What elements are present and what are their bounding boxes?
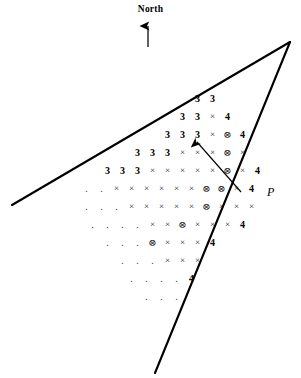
symbol-cell: .: [169, 291, 184, 302]
symbol-cell: 3: [160, 147, 175, 158]
symbol-cell: .: [154, 291, 169, 302]
symbol-row: ....××⊗×××4: [85, 218, 250, 229]
symbol-cell: 3: [190, 111, 205, 122]
symbol-cell: 3: [205, 93, 220, 104]
symbol-cell: ×: [160, 237, 175, 248]
symbol-row: 33×4: [175, 110, 235, 121]
symbol-row: 333×⊗4: [160, 128, 250, 139]
symbol-cell: ⊗: [220, 165, 235, 176]
symbol-cell: .: [79, 201, 94, 212]
symbol-cell: .: [100, 219, 115, 230]
symbol-row: ..××××××⊗⊗×4: [79, 182, 259, 193]
symbol-cell: ×: [184, 183, 199, 194]
symbol-cell: .: [124, 273, 139, 284]
symbol-cell: ×: [190, 147, 205, 158]
symbol-cell: ×: [145, 165, 160, 176]
symbol-cell: .: [169, 273, 184, 284]
symbol-cell: ×: [109, 183, 124, 194]
symbol-cell: ×: [154, 201, 169, 212]
symbol-cell: ×: [214, 201, 229, 212]
symbol-cell: .: [115, 255, 130, 266]
symbol-cell: ×: [205, 111, 220, 122]
symbol-cell: ⊗: [214, 183, 229, 194]
symbol-row: ...⊗×××4: [100, 236, 220, 247]
symbol-row: 33: [190, 92, 220, 103]
symbol-cell: ×: [205, 147, 220, 158]
symbol-cell: 3: [100, 165, 115, 176]
symbol-cell: ×: [244, 201, 259, 212]
symbol-cell: .: [115, 219, 130, 230]
symbol-cell: ×: [139, 201, 154, 212]
symbol-row: 333×××××⊗×4: [100, 164, 265, 175]
symbol-cell: 3: [115, 165, 130, 176]
symbol-cell: .: [115, 237, 130, 248]
symbol-cell: ×: [175, 237, 190, 248]
symbol-cell: ×: [220, 219, 235, 230]
symbol-cell: ×: [124, 183, 139, 194]
symbol-cell: ×: [160, 165, 175, 176]
symbol-cell: ×: [235, 165, 250, 176]
symbol-row: ...×××××⊗×××: [79, 200, 259, 211]
symbol-cell: ×: [175, 255, 190, 266]
symbol-cell: ×: [175, 165, 190, 176]
symbol-cell: .: [145, 255, 160, 266]
symbol-cell: ⊗: [145, 237, 160, 248]
symbol-cell: .: [130, 255, 145, 266]
symbol-cell: ×: [175, 147, 190, 158]
symbol-cell: 3: [190, 129, 205, 140]
symbol-grid: 3333×4333×⊗4333×××⊗×333×××××⊗×4..××××××⊗…: [0, 0, 301, 378]
symbol-cell: 4: [235, 129, 250, 140]
symbol-cell: ×: [160, 255, 175, 266]
symbol-row: ....4: [124, 272, 199, 283]
symbol-cell: ⊗: [220, 147, 235, 158]
symbol-cell: ×: [154, 183, 169, 194]
symbol-cell: 4: [220, 111, 235, 122]
symbol-row: ...: [139, 290, 184, 301]
symbol-cell: ⊗: [199, 201, 214, 212]
symbol-cell: ×: [184, 201, 199, 212]
symbol-cell: ×: [205, 129, 220, 140]
symbol-cell: .: [79, 183, 94, 194]
symbol-cell: 4: [244, 183, 259, 194]
symbol-cell: ×: [145, 219, 160, 230]
symbol-cell: ⊗: [199, 183, 214, 194]
symbol-cell: .: [130, 237, 145, 248]
symbol-cell: .: [94, 183, 109, 194]
symbol-cell: 3: [160, 129, 175, 140]
symbol-cell: ×: [190, 219, 205, 230]
symbol-cell: 3: [190, 93, 205, 104]
symbol-cell: ×: [235, 147, 250, 158]
symbol-cell: .: [109, 201, 124, 212]
symbol-cell: .: [139, 273, 154, 284]
symbol-cell: ×: [205, 219, 220, 230]
symbol-cell: 4: [250, 165, 265, 176]
symbol-cell: ×: [229, 183, 244, 194]
symbol-cell: ×: [190, 237, 205, 248]
symbol-row: ...×××: [115, 254, 205, 265]
symbol-cell: ×: [229, 201, 244, 212]
symbol-cell: 3: [130, 165, 145, 176]
symbol-cell: 3: [145, 147, 160, 158]
symbol-cell: .: [139, 291, 154, 302]
symbol-cell: .: [130, 219, 145, 230]
symbol-cell: .: [85, 219, 100, 230]
symbol-cell: 3: [175, 129, 190, 140]
symbol-cell: .: [100, 237, 115, 248]
symbol-cell: 4: [205, 237, 220, 248]
symbol-cell: ×: [139, 183, 154, 194]
symbol-cell: .: [154, 273, 169, 284]
symbol-cell: 3: [175, 111, 190, 122]
map-figure: North P 3333×4333×⊗4333×××⊗×333×××××⊗×4.…: [0, 0, 301, 378]
symbol-cell: .: [94, 201, 109, 212]
symbol-cell: 4: [235, 219, 250, 230]
symbol-cell: 4: [184, 273, 199, 284]
symbol-cell: ×: [205, 165, 220, 176]
symbol-cell: ×: [190, 255, 205, 266]
symbol-cell: ×: [190, 165, 205, 176]
symbol-cell: ×: [169, 201, 184, 212]
symbol-cell: ⊗: [175, 219, 190, 230]
symbol-cell: ×: [160, 219, 175, 230]
symbol-cell: ×: [124, 201, 139, 212]
symbol-row: 333×××⊗×: [130, 146, 250, 157]
symbol-cell: ⊗: [220, 129, 235, 140]
